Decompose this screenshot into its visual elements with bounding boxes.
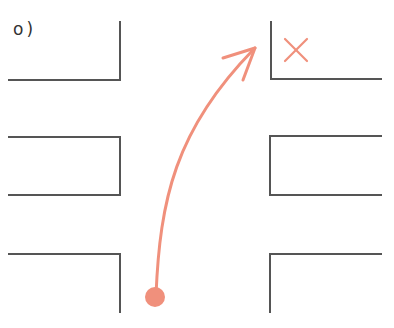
diagram-canvas: [0, 0, 394, 328]
wall-bottom-left: [9, 254, 120, 312]
wall-top-left: [9, 22, 120, 80]
wall-top-right: [271, 22, 381, 79]
curved-arrow-path: [156, 50, 253, 295]
wall-middle-left: [9, 137, 120, 195]
start-dot-icon: [145, 287, 165, 307]
x-mark-icon: [285, 39, 307, 61]
wall-middle-right: [270, 136, 381, 195]
wall-bottom-right: [270, 254, 381, 312]
